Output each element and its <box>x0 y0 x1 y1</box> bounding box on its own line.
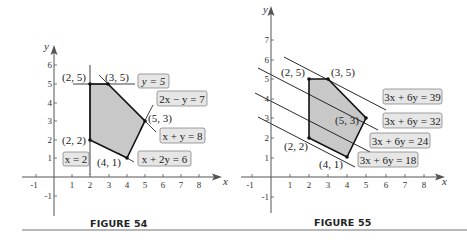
svg-text:5: 5 <box>143 180 148 190</box>
svg-text:3: 3 <box>48 116 53 126</box>
svg-text:3: 3 <box>265 113 270 123</box>
level-box-39: 3x + 6y = 39 <box>383 89 442 104</box>
figure-54: x y -1 1 2 3 4 5 6 7 8 -1 <box>22 40 228 216</box>
x-axis-label: x <box>441 175 447 187</box>
constraint-box-2x-minus-y-7: 2x − y = 7 <box>157 91 207 106</box>
vertex-label-2-2: (2, 2) <box>62 134 86 147</box>
svg-text:2: 2 <box>307 180 312 190</box>
vertex-label-2-5: (2, 5) <box>62 71 86 84</box>
level-box-24: 3x + 6y = 24 <box>370 133 430 148</box>
vertex-label-2-2: (2, 2) <box>284 140 308 153</box>
svg-text:x + y = 8: x + y = 8 <box>163 130 203 142</box>
level-box-32: 3x + 6y = 32 <box>383 113 442 128</box>
svg-text:-1: -1 <box>246 180 254 190</box>
vertex-label-5-3: (5, 3) <box>335 114 359 127</box>
svg-text:5: 5 <box>48 79 53 89</box>
feasible-region <box>90 84 145 158</box>
vertex-label-4-1: (4, 1) <box>319 158 343 171</box>
svg-text:5: 5 <box>265 74 270 84</box>
level-box-18: 3x + 6y = 18 <box>358 152 418 167</box>
x-tick-labels: -1 1 2 3 4 5 6 7 8 <box>30 180 202 190</box>
svg-text:3x + 6y = 39: 3x + 6y = 39 <box>384 91 441 103</box>
section-divider <box>22 229 467 231</box>
figure-canvas: x y -1 1 2 3 4 5 6 7 8 -1 <box>0 0 467 247</box>
svg-text:-1: -1 <box>262 192 270 202</box>
svg-text:5: 5 <box>364 180 369 190</box>
svg-text:4: 4 <box>48 98 53 108</box>
figure-54-caption: FIGURE 54 <box>90 218 148 229</box>
svg-text:3: 3 <box>107 180 112 190</box>
svg-text:2x − y = 7: 2x − y = 7 <box>159 93 205 105</box>
vertex-label-3-5: (3, 5) <box>331 66 355 79</box>
svg-text:6: 6 <box>265 55 270 65</box>
svg-text:2: 2 <box>88 180 93 190</box>
y-tick-labels: -1 1 2 3 4 5 6 <box>45 60 53 201</box>
svg-text:2: 2 <box>48 135 53 145</box>
svg-text:y = 5: y = 5 <box>141 75 166 87</box>
vertex-label-2-5: (2, 5) <box>281 66 305 79</box>
svg-text:3x + 6y = 24: 3x + 6y = 24 <box>372 135 429 147</box>
svg-text:7: 7 <box>265 35 270 45</box>
svg-text:6: 6 <box>48 60 53 70</box>
y-axis-label: y <box>43 40 49 52</box>
svg-text:8: 8 <box>197 180 202 190</box>
figure-55-caption: FIGURE 55 <box>314 217 372 228</box>
svg-text:2: 2 <box>265 133 270 143</box>
svg-text:6: 6 <box>384 180 389 190</box>
svg-text:1: 1 <box>288 180 293 190</box>
svg-text:1: 1 <box>265 153 270 163</box>
svg-text:4: 4 <box>125 180 130 190</box>
svg-text:8: 8 <box>422 180 427 190</box>
vertex-label-5-3: (5, 3) <box>148 112 172 125</box>
constraint-box-y-5: y = 5 <box>138 74 169 88</box>
svg-text:6: 6 <box>161 180 166 190</box>
constraint-box-x-plus-y-8: x + y = 8 <box>160 128 205 143</box>
svg-text:3x + 6y = 32: 3x + 6y = 32 <box>384 115 440 127</box>
svg-text:7: 7 <box>179 180 184 190</box>
vertex-label-3-5: (3, 5) <box>105 71 129 84</box>
y-axis-label: y <box>262 3 268 15</box>
figure-55: x y -1 1 2 3 4 5 6 7 8 -1 1 <box>241 3 447 213</box>
svg-text:4: 4 <box>265 94 270 104</box>
svg-text:4: 4 <box>345 180 350 190</box>
svg-text:1: 1 <box>48 153 53 163</box>
svg-text:-1: -1 <box>45 191 53 201</box>
svg-text:7: 7 <box>403 180 408 190</box>
svg-text:3: 3 <box>326 180 331 190</box>
svg-text:3x + 6y = 18: 3x + 6y = 18 <box>360 154 417 166</box>
vertex-label-4-1: (4, 1) <box>97 156 121 169</box>
svg-text:1: 1 <box>70 180 75 190</box>
x-axis-label: x <box>222 175 228 187</box>
svg-text:x = 2: x = 2 <box>65 153 88 165</box>
constraint-box-x-plus-2y-6: x + 2y = 6 <box>138 151 191 166</box>
svg-text:x + 2y = 6: x + 2y = 6 <box>142 153 188 165</box>
x-tick-labels: -1 1 2 3 4 5 6 7 8 <box>246 180 427 190</box>
svg-text:-1: -1 <box>30 180 38 190</box>
constraint-box-x-2: x = 2 <box>63 152 89 166</box>
